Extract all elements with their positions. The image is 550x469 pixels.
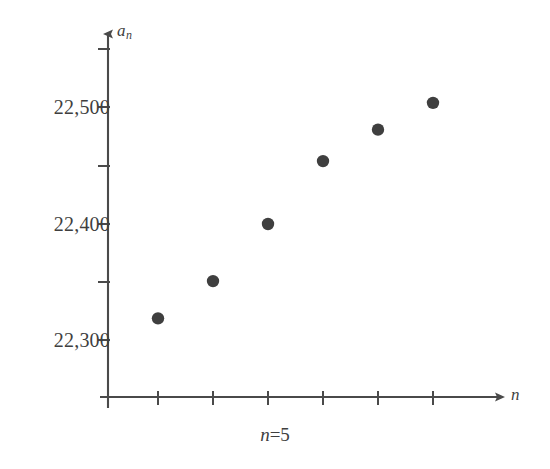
y-tick-label-22500: 22,500 bbox=[28, 96, 110, 119]
y-axis-label-subscript: n bbox=[126, 28, 132, 42]
data-point-group bbox=[152, 97, 439, 325]
data-point bbox=[427, 97, 439, 109]
y-tick-label-22400: 22,400 bbox=[28, 213, 110, 236]
x-axis-label: n bbox=[511, 385, 520, 405]
data-point bbox=[372, 123, 384, 135]
scatter-plot-figure: 22,500 22,400 22,300 an n n=5 bbox=[0, 0, 550, 469]
chart-annotation-caption: n=5 bbox=[0, 424, 550, 446]
y-tick-label-22300: 22,300 bbox=[28, 329, 110, 352]
y-axis-label-main: a bbox=[117, 21, 126, 40]
data-point bbox=[262, 218, 274, 230]
annotation-rest: =5 bbox=[270, 424, 290, 445]
data-point bbox=[152, 312, 164, 324]
y-axis-label: an bbox=[117, 21, 132, 43]
data-point bbox=[207, 275, 219, 287]
data-point bbox=[317, 155, 329, 167]
annotation-variable: n bbox=[260, 424, 270, 445]
